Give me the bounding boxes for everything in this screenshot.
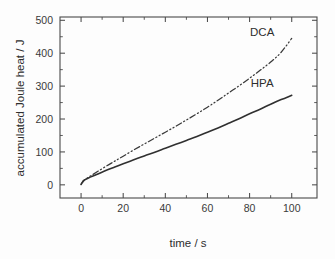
series-label-dca: DCA [250, 26, 275, 38]
y-tick-label: 100 [35, 146, 53, 158]
x-tick-label: 0 [78, 202, 84, 214]
x-axis-title: time / s [169, 237, 206, 249]
y-tick-label: 200 [35, 113, 53, 125]
y-tick-label: 300 [35, 80, 53, 92]
y-axis-title: accumulated Joule heat / J [14, 40, 26, 177]
y-tick-label: 500 [35, 14, 53, 26]
series-label-hpa: HPA [251, 77, 274, 89]
y-tick-label: 0 [47, 179, 53, 191]
x-tick-label: 20 [117, 202, 129, 214]
x-tick-label: 40 [159, 202, 171, 214]
x-tick-label: 80 [244, 202, 256, 214]
x-tick-label: 60 [202, 202, 214, 214]
chart-background [0, 0, 335, 259]
joule-heat-line-chart: 020406080100 0100200300400500 DCA HPA ti… [0, 0, 335, 259]
y-tick-label: 400 [35, 47, 53, 59]
x-tick-label: 100 [283, 202, 301, 214]
chart-figure: 020406080100 0100200300400500 DCA HPA ti… [0, 0, 335, 259]
